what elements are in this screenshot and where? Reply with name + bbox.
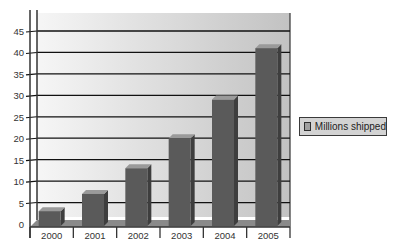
bar-2003	[169, 134, 195, 226]
y-tick-label: 20	[13, 133, 24, 144]
legend: Millions shipped	[299, 117, 387, 136]
y-tick-label: 30	[13, 90, 24, 101]
y-tick-label: 35	[13, 69, 24, 80]
plot-floor	[30, 220, 290, 227]
x-tick-label: 2001	[84, 230, 105, 241]
y-tick-label: 5	[19, 198, 24, 209]
x-tick-label: 2003	[171, 230, 192, 241]
bar-2002	[125, 164, 151, 226]
y-tick-label: 0	[19, 219, 24, 230]
x-tick-label: 2002	[128, 230, 149, 241]
y-axis-ticks: 051015202530354045	[13, 26, 24, 230]
x-axis-ticks: 200020012002200320042005	[30, 227, 290, 241]
bar-2004	[212, 96, 238, 226]
legend-swatch-icon	[304, 122, 311, 131]
x-tick-label: 2000	[41, 230, 62, 241]
y-tick-label: 25	[13, 112, 24, 123]
bar-2005	[255, 44, 281, 226]
x-tick-label: 2004	[214, 230, 235, 241]
bar-2000	[39, 207, 65, 226]
y-tick-label: 10	[13, 176, 24, 187]
y-tick-label: 15	[13, 155, 24, 166]
x-tick-label: 2005	[258, 230, 279, 241]
y-tick-label: 40	[13, 47, 24, 58]
y-tick-label: 45	[13, 26, 24, 37]
plot-back-wall	[37, 13, 290, 227]
bar-2001	[82, 190, 108, 226]
legend-label: Millions shipped	[315, 121, 386, 132]
